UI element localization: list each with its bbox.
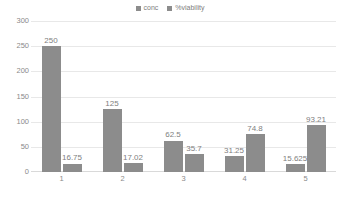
- bars-layer: 250 16.75 125 17.02 62.5: [31, 21, 336, 172]
- legend-swatch-icon: [136, 6, 141, 11]
- bar-conc[interactable]: [103, 109, 122, 172]
- x-axis: 1 2 3 4 5: [31, 174, 336, 190]
- x-tick-label: 5: [275, 174, 336, 190]
- bar-group: 15.625 93.21: [275, 21, 336, 172]
- bar-wrap-viability: 16.75: [63, 21, 82, 172]
- bar-conc[interactable]: [225, 156, 244, 172]
- bar-value-label: 17.02: [110, 153, 156, 162]
- y-tick-label: 250: [1, 42, 29, 50]
- x-tick-label: 3: [153, 174, 214, 190]
- bar-value-label: 74.8: [232, 124, 278, 133]
- legend-label-viability: %viability: [175, 4, 204, 12]
- x-tick-label: 2: [92, 174, 153, 190]
- y-tick-label: 0: [1, 168, 29, 176]
- x-tick-label: 4: [214, 174, 275, 190]
- legend-entry-conc[interactable]: conc: [136, 4, 159, 12]
- bar-viability[interactable]: [185, 154, 204, 172]
- bar-group: 62.5 35.7: [153, 21, 214, 172]
- bar-viability[interactable]: [63, 164, 82, 172]
- legend-entry-viability[interactable]: %viability: [167, 4, 204, 12]
- bar-conc[interactable]: [286, 164, 305, 172]
- y-tick-label: 100: [1, 118, 29, 126]
- bar-wrap-conc: 31.25: [225, 21, 244, 172]
- chart-legend: conc %viability: [0, 1, 340, 15]
- bar-wrap-viability: 17.02: [124, 21, 143, 172]
- x-tick-label: 1: [31, 174, 92, 190]
- bar-group: 250 16.75: [31, 21, 92, 172]
- legend-label-conc: conc: [144, 4, 159, 12]
- bar-chart: conc %viability 300 250 200 150 100 50 0…: [0, 0, 340, 203]
- bar-viability[interactable]: [307, 125, 326, 172]
- bar-wrap-viability: 93.21: [307, 21, 326, 172]
- y-tick-label: 150: [1, 93, 29, 101]
- bar-viability[interactable]: [124, 163, 143, 172]
- y-tick-label: 300: [1, 17, 29, 25]
- bar-wrap-viability: 35.7: [185, 21, 204, 172]
- bar-wrap-conc: 125: [103, 21, 122, 172]
- bar-wrap-viability: 74.8: [246, 21, 265, 172]
- y-axis: 300 250 200 150 100 50 0: [0, 21, 29, 172]
- bar-group: 125 17.02: [92, 21, 153, 172]
- y-tick-label: 200: [1, 67, 29, 75]
- bar-value-label: 93.21: [293, 115, 339, 124]
- legend-swatch-icon: [167, 6, 172, 11]
- bar-wrap-conc: 15.625: [286, 21, 305, 172]
- bar-value-label: 16.75: [49, 153, 95, 162]
- y-tick-label: 50: [1, 143, 29, 151]
- bar-group: 31.25 74.8: [214, 21, 275, 172]
- bar-wrap-conc: 250: [42, 21, 61, 172]
- bar-viability[interactable]: [246, 134, 265, 172]
